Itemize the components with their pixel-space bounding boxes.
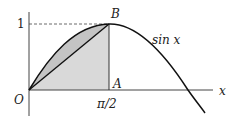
point-a-label: A <box>112 77 122 91</box>
y-tick-label: 1 <box>17 17 25 31</box>
x-axis-label: x <box>219 84 226 98</box>
point-b-label: B <box>110 7 120 21</box>
curve-label: sin x <box>152 33 181 47</box>
x-tick-label: π/2 <box>96 97 117 111</box>
sine-diagram: 1 O B A π/2 x sin x <box>0 0 235 117</box>
origin-label: O <box>14 93 24 107</box>
